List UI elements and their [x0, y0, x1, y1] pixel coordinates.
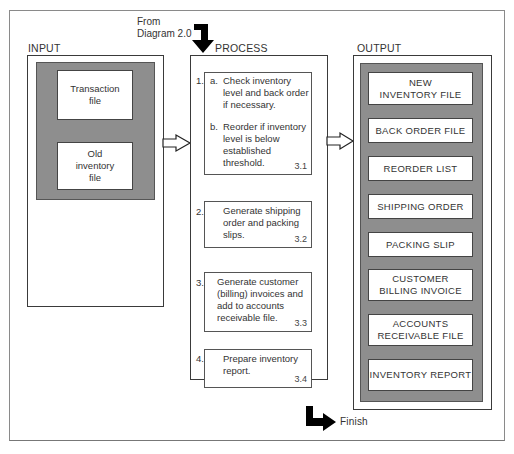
- output-item-line: PACKING SLIP: [386, 239, 455, 251]
- output-item-accounts-receivable-file: ACCOUNTSRECEIVABLE FILE: [368, 314, 473, 346]
- output-item-shipping-order: SHIPPING ORDER: [368, 194, 473, 219]
- output-item-line: REORDER LIST: [384, 163, 458, 175]
- finish-label: Finish: [340, 416, 368, 427]
- output-item-line: ACCOUNTS: [377, 318, 463, 330]
- output-item-line: BILLING INVOICE: [379, 285, 462, 297]
- output-item-line: INVENTORY FILE: [380, 89, 462, 101]
- output-title: OUTPUT: [357, 42, 401, 54]
- output-item-line: NEW: [380, 77, 462, 89]
- output-item-line: SHIPPING ORDER: [377, 201, 464, 213]
- output-item-line: CUSTOMER: [379, 273, 462, 285]
- output-item-back-order-file: BACK ORDER FILE: [368, 118, 473, 143]
- output-item-line: INVENTORY REPORT: [370, 369, 472, 381]
- output-item-inventory-report: INVENTORY REPORT: [368, 359, 473, 391]
- output-item-reorder-list: REORDER LIST: [368, 156, 473, 181]
- output-item-new-inventory-file: NEWINVENTORY FILE: [368, 72, 473, 105]
- output-item-customer-billing-invoice: CUSTOMERBILLING INVOICE: [368, 269, 473, 301]
- output-item-line: BACK ORDER FILE: [375, 125, 465, 137]
- output-item-line: RECEIVABLE FILE: [377, 330, 463, 342]
- output-item-packing-slip: PACKING SLIP: [368, 232, 473, 257]
